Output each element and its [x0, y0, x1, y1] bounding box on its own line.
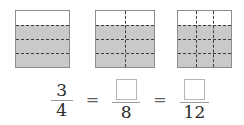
fraction-1-denominator: 4: [52, 101, 71, 120]
fraction-figure: 3 4 = 8 = 12: [0, 0, 244, 125]
fraction-blank-over-twelve: 12: [180, 79, 210, 122]
fraction-3-denominator: 12: [180, 103, 210, 122]
answer-input-box-eighths[interactable]: [116, 79, 137, 100]
equivalent-fraction-equation: 3 4 = 8 = 12: [0, 76, 244, 125]
grid-vline-twelfths-1: [196, 11, 197, 67]
grid-hline-twelfths-3: [178, 53, 231, 54]
grid-vline-twelfths-2: [213, 11, 214, 67]
area-model-eighths: [95, 10, 155, 68]
fraction-1-numerator: 3: [52, 81, 71, 100]
fraction-2-denominator: 8: [117, 103, 136, 122]
grid-hline-twelfths-1: [178, 25, 231, 26]
area-model-fourths: [15, 10, 70, 68]
answer-input-box-twelfths[interactable]: [184, 79, 205, 100]
area-model-twelfths: [177, 10, 232, 68]
grid-vline-eighths-1: [125, 11, 126, 67]
equals-sign-2: =: [153, 90, 166, 111]
shaded-region-fourths: [16, 25, 69, 67]
grid-hline-fourths-2: [16, 39, 69, 40]
equals-sign-1: =: [86, 90, 99, 111]
fraction-blank-over-eight: 8: [112, 79, 140, 122]
fraction-three-fourths: 3 4: [51, 81, 73, 120]
grid-hline-fourths-3: [16, 53, 69, 54]
grid-hline-fourths-1: [16, 25, 69, 26]
shaded-region-twelfths: [178, 25, 231, 67]
grid-hline-twelfths-2: [178, 39, 231, 40]
